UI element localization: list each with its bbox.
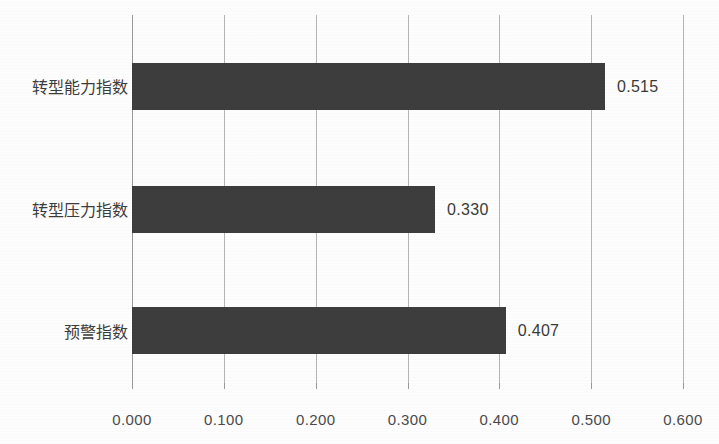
tick-mark-0.000 (132, 383, 133, 389)
xtick-label-5: 0.500 (571, 411, 611, 428)
bar-0 (132, 63, 605, 110)
tick-mark-0.500 (591, 383, 592, 389)
plot-area: 0.000 0.100 0.200 0.300 0.400 0.500 0.60… (132, 15, 683, 383)
category-axis-labels: 转型能力指数 转型压力指数 预警指数 (0, 0, 128, 444)
bar-value-label-1: 0.330 (447, 201, 489, 219)
tick-mark-0.200 (316, 383, 317, 389)
gridline-0.600 (683, 15, 684, 383)
xtick-label-6: 0.600 (663, 411, 703, 428)
bar-value-label-2: 0.407 (518, 322, 560, 340)
category-label-1: 转型压力指数 (4, 197, 128, 221)
tick-mark-0.100 (224, 383, 225, 389)
bar-2 (132, 307, 506, 354)
category-label-2: 预警指数 (4, 319, 128, 343)
category-label-0: 转型能力指数 (4, 74, 128, 98)
tick-mark-0.400 (499, 383, 500, 389)
xtick-label-0: 0.000 (112, 411, 152, 428)
xtick-label-2: 0.200 (296, 411, 336, 428)
chart-figure: 转型能力指数 转型压力指数 预警指数 0.000 0.100 0.200 0.3… (0, 0, 719, 444)
xtick-label-3: 0.300 (388, 411, 428, 428)
tick-mark-0.300 (408, 383, 409, 389)
xtick-label-4: 0.400 (480, 411, 520, 428)
bar-value-label-0: 0.515 (617, 78, 659, 96)
xtick-label-1: 0.100 (204, 411, 244, 428)
tick-mark-0.600 (683, 383, 684, 389)
bar-1 (132, 186, 435, 233)
